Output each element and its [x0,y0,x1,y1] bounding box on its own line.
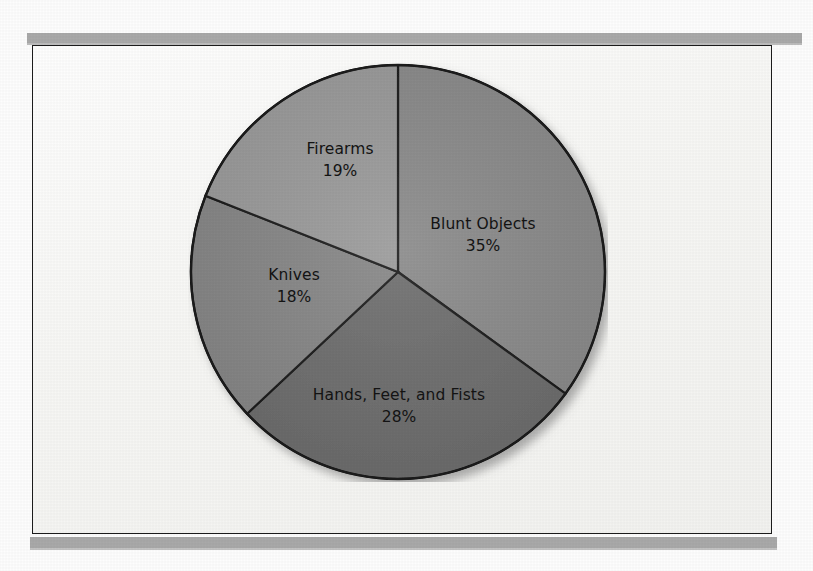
bottom-rule-bar [30,537,777,549]
pie-label-hands-feet-fists: Hands, Feet, and Fists [313,386,485,404]
pie-value-knives: 18% [277,288,311,306]
pie-value-blunt-objects: 35% [466,237,500,255]
top-rule-bar [27,33,802,44]
pie-label-knives: Knives [268,266,320,284]
figure-page: Blunt Objects 35% Hands, Feet, and Fists… [0,0,813,571]
pie-value-hands-feet-fists: 28% [382,408,416,426]
pie-label-blunt-objects: Blunt Objects [430,215,535,233]
figure-frame: Blunt Objects 35% Hands, Feet, and Fists… [32,45,772,534]
pie-chart: Blunt Objects 35% Hands, Feet, and Fists… [188,62,608,482]
pie-label-firearms: Firearms [306,140,373,158]
pie-chart-svg: Blunt Objects 35% Hands, Feet, and Fists… [188,62,608,482]
pie-value-firearms: 19% [323,162,357,180]
